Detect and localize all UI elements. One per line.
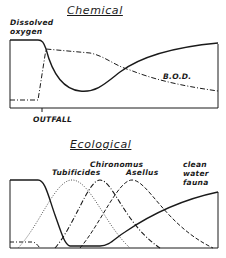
- chironomus-curve: [55, 180, 160, 248]
- ecological-axes: [10, 180, 218, 248]
- diagram-graphics: [0, 0, 226, 258]
- bod-curve: [10, 49, 218, 100]
- initial-fauna-curve: [10, 180, 218, 246]
- tubificides-curve: [18, 180, 130, 248]
- initial-dashdot-curve: [10, 242, 40, 248]
- dissolved-oxygen-curve: [10, 40, 218, 91]
